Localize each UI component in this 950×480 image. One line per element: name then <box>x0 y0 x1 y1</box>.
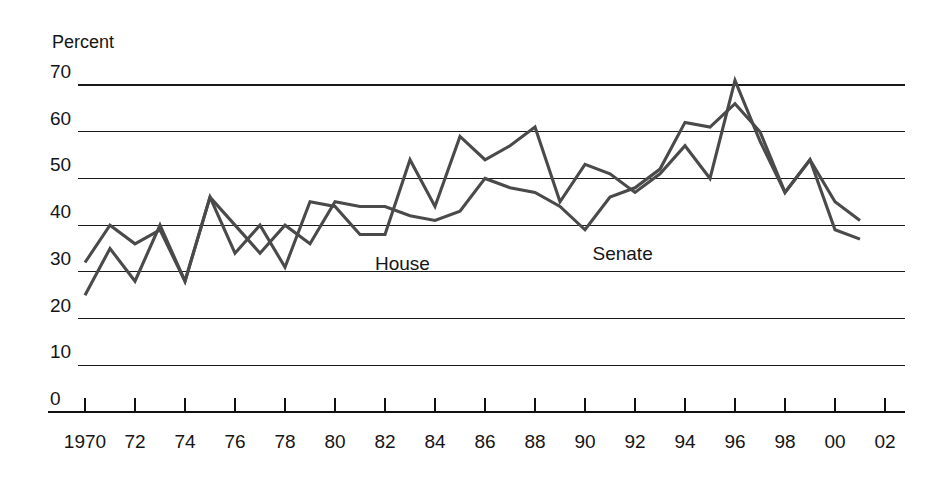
x-axis-tick-label: 96 <box>724 431 745 452</box>
series-line-house <box>85 104 860 282</box>
y-axis-tick-label: 70 <box>50 61 71 82</box>
x-axis-tick-label: 98 <box>774 431 795 452</box>
series-label-house: House <box>375 253 430 274</box>
y-axis-tick-label: 20 <box>50 295 71 316</box>
y-axis-tick-label: 30 <box>50 248 71 269</box>
series-annotations: HouseSenate <box>375 243 653 273</box>
y-axis-tick-label: 10 <box>50 341 71 362</box>
x-axis-tick-label: 90 <box>574 431 595 452</box>
x-axis-tick-label: 1970 <box>64 431 106 452</box>
y-axis-tick-labels: 706050403020100 <box>50 61 71 409</box>
x-axis-tick-label: 02 <box>874 431 895 452</box>
y-axis-tick-label: 40 <box>50 201 71 222</box>
y-axis-tick-label: 60 <box>50 108 71 129</box>
x-axis-tick-label: 94 <box>674 431 696 452</box>
y-axis-tick-label: 50 <box>50 154 71 175</box>
x-axis-tick-label: 76 <box>224 431 245 452</box>
x-axis-tick-label: 84 <box>424 431 446 452</box>
data-series <box>85 80 860 295</box>
x-axis-tick-label: 92 <box>624 431 645 452</box>
x-axis-tick-label: 88 <box>524 431 545 452</box>
x-axis-tick-label: 00 <box>824 431 845 452</box>
x-axis-ticks <box>85 398 885 412</box>
y-axis-tick-label: 0 <box>50 388 61 409</box>
chart-container: 706050403020100 197072747678808284868890… <box>0 0 950 480</box>
x-axis-tick-label: 72 <box>124 431 145 452</box>
series-label-senate: Senate <box>593 243 653 264</box>
x-axis-tick-label: 80 <box>324 431 345 452</box>
line-chart: 706050403020100 197072747678808284868890… <box>0 0 950 480</box>
x-axis-tick-label: 86 <box>474 431 495 452</box>
x-axis-tick-label: 74 <box>174 431 196 452</box>
x-axis-tick-label: 78 <box>274 431 295 452</box>
y-axis-title: Percent <box>52 32 114 52</box>
x-axis-tick-label: 82 <box>374 431 395 452</box>
x-axis-tick-labels: 197072747678808284868890929496980002 <box>64 431 896 452</box>
